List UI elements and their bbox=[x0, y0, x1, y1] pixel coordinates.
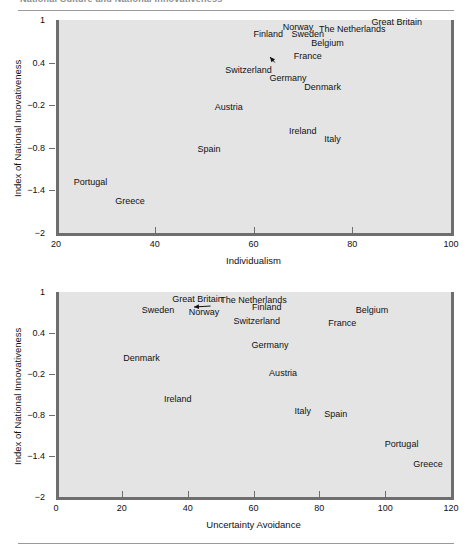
data-point-label: Austria bbox=[269, 369, 297, 378]
data-point-label: Denmark bbox=[304, 82, 341, 91]
y-axis-line bbox=[56, 292, 59, 500]
y-tick bbox=[49, 190, 55, 191]
data-point-label: Germany bbox=[270, 73, 307, 82]
y-axis-line bbox=[56, 20, 59, 236]
data-point-label: Finland bbox=[254, 30, 284, 39]
data-point-label: Spain bbox=[198, 145, 221, 154]
data-point-label: Italy bbox=[295, 406, 312, 415]
data-point-label: France bbox=[328, 318, 356, 327]
y-axis-title: Index of National Innovativeness bbox=[12, 59, 23, 196]
x-tick-label: 20 bbox=[117, 503, 127, 513]
x-axis-title: Uncertainty Avoidance bbox=[206, 519, 300, 530]
data-point-label: Germany bbox=[251, 340, 288, 349]
y-axis-title: Index of National Innovativeness bbox=[12, 327, 23, 464]
x-tick bbox=[122, 491, 123, 497]
x-tick-label: 120 bbox=[443, 503, 458, 513]
data-point-label: Finland bbox=[252, 303, 282, 312]
y-tick bbox=[49, 456, 55, 457]
x-axis-line bbox=[56, 233, 454, 236]
data-point-label: France bbox=[294, 52, 322, 61]
figure-top-rule bbox=[18, 10, 454, 11]
x-tick-label: 40 bbox=[183, 503, 193, 513]
data-point-label: The Netherlands bbox=[319, 24, 386, 33]
data-point-label: Great Britain bbox=[172, 294, 223, 303]
data-point-label: Portugal bbox=[385, 440, 419, 449]
y-tick bbox=[49, 415, 55, 416]
x-tick bbox=[155, 227, 156, 233]
x-tick-label: 40 bbox=[150, 239, 160, 249]
x-tick bbox=[352, 227, 353, 233]
y-tick-label: −2 bbox=[18, 492, 45, 502]
data-point-label: Greece bbox=[413, 460, 443, 469]
figure-bottom-rule bbox=[18, 543, 454, 544]
x-tick-label: 80 bbox=[347, 239, 357, 249]
data-point-label: Greece bbox=[115, 197, 145, 206]
y-tick bbox=[49, 105, 55, 106]
y-tick-label: 1 bbox=[18, 15, 45, 25]
x-tick-label: 80 bbox=[314, 503, 324, 513]
data-point-label: Belgium bbox=[356, 306, 389, 315]
data-point-label: Belgium bbox=[311, 39, 344, 48]
data-point-label: Austria bbox=[215, 102, 243, 111]
x-tick bbox=[254, 491, 255, 497]
x-tick-label: 60 bbox=[248, 503, 258, 513]
data-point-label: Switzerland bbox=[234, 316, 281, 325]
x-tick-label: 20 bbox=[51, 239, 61, 249]
plot-right-edge bbox=[451, 20, 454, 236]
y-tick-label: 1 bbox=[18, 287, 45, 297]
x-tick-label: 100 bbox=[378, 503, 393, 513]
y-tick bbox=[49, 333, 55, 334]
x-tick-label: 100 bbox=[443, 239, 458, 249]
clipped-header-caption: National Culture and National Innovative… bbox=[20, 0, 440, 4]
x-tick bbox=[188, 491, 189, 497]
x-tick bbox=[319, 491, 320, 497]
data-point-label: Ireland bbox=[164, 394, 192, 403]
data-point-label: Ireland bbox=[289, 127, 317, 136]
data-point-label: Italy bbox=[324, 134, 341, 143]
data-point-label: Spain bbox=[324, 410, 347, 419]
x-tick bbox=[385, 491, 386, 497]
data-point-label: Portugal bbox=[74, 177, 108, 186]
x-tick-label: 60 bbox=[248, 239, 258, 249]
data-point-label: Sweden bbox=[142, 305, 175, 314]
x-tick bbox=[254, 227, 255, 233]
x-axis-title: Individualism bbox=[226, 255, 281, 266]
y-tick bbox=[49, 148, 55, 149]
x-tick-label: 0 bbox=[53, 503, 58, 513]
data-point-label: Norway bbox=[189, 307, 220, 316]
y-tick-label: −2 bbox=[18, 228, 45, 238]
y-tick bbox=[49, 374, 55, 375]
x-axis-line bbox=[56, 497, 454, 500]
plot-right-edge bbox=[451, 292, 454, 500]
data-point-label: Switzerland bbox=[225, 65, 272, 74]
y-tick bbox=[49, 63, 55, 64]
data-point-label: Denmark bbox=[123, 354, 160, 363]
